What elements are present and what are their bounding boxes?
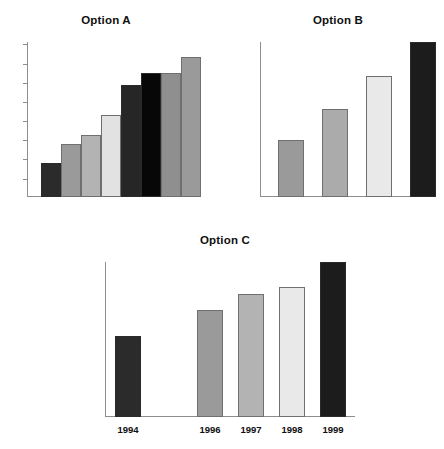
x-axis-label: 1994	[103, 424, 153, 435]
plot-area-option-b	[260, 42, 428, 197]
y-axis-tick	[23, 179, 28, 180]
plot-area-option-c	[105, 262, 355, 417]
bar	[161, 73, 181, 197]
y-axis-tick	[23, 102, 28, 103]
y-axis-tick	[23, 83, 28, 84]
y-axis-line-option-b	[260, 42, 261, 197]
y-axis-tick	[23, 159, 28, 160]
chart-panel-option-a: Option A	[0, 14, 212, 214]
x-axis-line-option-c	[105, 416, 355, 417]
bar	[41, 163, 61, 197]
bar	[320, 262, 346, 417]
bar	[197, 310, 223, 417]
chart-title-option-b: Option B	[232, 14, 444, 26]
chart-title-option-c: Option C	[60, 234, 390, 246]
plot-area-option-a	[27, 42, 192, 197]
chart-title-option-a: Option A	[0, 14, 212, 26]
bar	[101, 115, 121, 197]
bar	[141, 73, 161, 197]
bar	[278, 140, 304, 197]
y-axis-tick	[23, 44, 28, 45]
y-axis-tick	[23, 121, 28, 122]
y-axis-tick	[23, 64, 28, 65]
chart-panel-option-b: Option B	[232, 14, 444, 214]
bar	[366, 76, 392, 197]
bar	[121, 85, 141, 197]
bar	[279, 287, 305, 417]
bar	[410, 42, 436, 197]
x-axis-label: 1999	[308, 424, 358, 435]
bar	[181, 57, 201, 197]
bar	[61, 144, 81, 197]
x-axis-labels-option-c: 1994 1996 1997 1998 1999	[105, 424, 355, 440]
bar	[238, 294, 264, 417]
y-axis-tick	[23, 140, 28, 141]
bar	[81, 135, 101, 197]
chart-panel-option-c: Option C 1994 1996 1997 1998 1999	[60, 234, 390, 449]
bar	[115, 336, 141, 417]
bar	[322, 109, 348, 197]
y-axis-line-option-a	[27, 42, 28, 197]
y-axis-line-option-c	[105, 262, 106, 417]
